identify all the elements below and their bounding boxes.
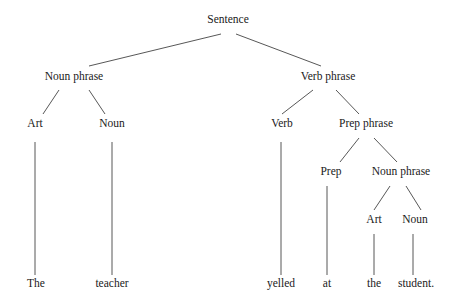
tree-edge [374,186,390,210]
word-the: The [27,278,45,290]
tree-edge [406,186,421,210]
tree-edges [0,0,456,305]
node-noun-2: Noun [402,214,428,226]
tree-edge [236,34,321,66]
word-student: student. [398,278,434,290]
node-noun-phrase-2: Noun phrase [372,166,430,178]
node-art-2: Art [366,214,381,226]
word-the-2: the [367,278,381,290]
tree-edge [374,138,397,162]
node-noun-phrase: Noun phrase [45,71,103,83]
tree-edge [89,34,221,66]
node-prep: Prep [320,166,341,178]
node-verb-phrase: Verb phrase [301,71,356,83]
node-noun: Noun [99,118,125,130]
tree-edge [336,90,359,114]
node-art: Art [27,118,42,130]
node-prep-phrase: Prep phrase [339,118,393,130]
tree-edge [89,90,105,114]
word-yelled: yelled [267,278,295,290]
node-verb: Verb [271,118,293,130]
tree-edge [282,90,313,114]
word-at: at [323,278,331,290]
tree-edge [340,138,359,162]
word-teacher: teacher [95,278,128,290]
node-sentence: Sentence [207,14,249,26]
tree-edge [43,90,59,114]
